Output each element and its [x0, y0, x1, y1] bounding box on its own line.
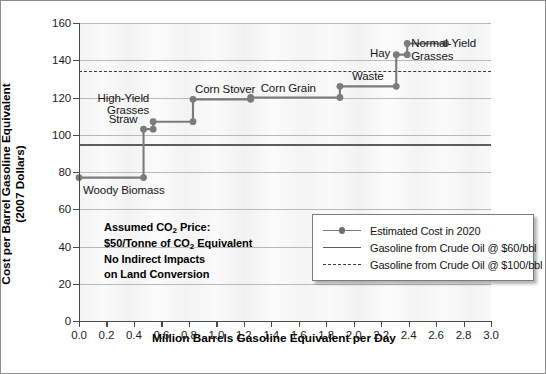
y-tick-label: 0 — [65, 315, 71, 327]
x-tick-label: 2.2 — [373, 329, 389, 341]
y-tick-label: 80 — [58, 166, 71, 178]
point-label: Hay — [370, 47, 390, 60]
legend-item-crude-60: Gasoline from Crude Oil @ $60/bbl — [321, 239, 527, 256]
x-tick-label: 0.6 — [154, 329, 170, 341]
x-tick-label: 1.6 — [291, 329, 307, 341]
y-tick-label: 100 — [52, 129, 71, 141]
legend: Estimated Cost in 2020 Gasoline from Cru… — [312, 214, 534, 281]
legend-key-line-solid — [321, 239, 363, 256]
x-tick-label: 2.8 — [456, 329, 472, 341]
x-tick-label: 0.0 — [71, 329, 87, 341]
data-point-marker — [150, 126, 157, 133]
data-point-marker — [337, 83, 344, 90]
x-tick-label: 1.0 — [208, 329, 224, 341]
assumption-line-1: Assumed CO2 Price: — [104, 221, 210, 233]
data-point-marker — [190, 96, 197, 103]
point-label: Waste — [352, 70, 384, 83]
point-label: Corn Stover — [195, 83, 255, 96]
data-point-marker — [140, 126, 147, 133]
legend-label: Gasoline from Crude Oil @ $60/bbl — [370, 242, 536, 254]
x-tick-label: 0.2 — [99, 329, 115, 341]
legend-item-estimated-cost: Estimated Cost in 2020 — [321, 222, 527, 239]
legend-label: Gasoline from Crude Oil @ $100/bbl — [370, 259, 542, 271]
x-tick-label: 1.2 — [236, 329, 252, 341]
assumption-line-4: on Land Conversion — [104, 268, 209, 280]
data-point-marker — [393, 51, 400, 58]
y-tick-label: 140 — [52, 54, 71, 66]
data-point-marker — [393, 83, 400, 90]
x-tick-label: 1.4 — [263, 329, 279, 341]
x-tick — [491, 321, 492, 327]
legend-key-line-dashed — [321, 256, 363, 273]
x-tick-label: 0.8 — [181, 329, 197, 341]
chart-page: Cost per Barrel Gasoline Equivalent (200… — [0, 0, 546, 374]
x-tick-label: 1.8 — [318, 329, 334, 341]
point-label: Corn Grain — [261, 82, 316, 95]
y-axis-line — [79, 23, 80, 321]
data-point-marker — [140, 174, 147, 181]
x-tick-label: 3.0 — [483, 329, 499, 341]
assumption-line-2: $50/Tonne of CO2 Equivalent — [104, 237, 252, 249]
y-tick-label: 40 — [58, 241, 71, 253]
assumptions-note: Assumed CO2 Price:$50/Tonne of CO2 Equiv… — [104, 220, 252, 282]
data-point-marker — [404, 40, 411, 47]
x-tick-label: 0.4 — [126, 329, 142, 341]
y-tick-label: 20 — [58, 278, 71, 290]
legend-key-line-marker — [321, 222, 363, 239]
x-axis-line — [79, 321, 491, 322]
x-tick-label: 2.0 — [346, 329, 362, 341]
y-tick-label: 60 — [58, 203, 71, 215]
data-point-marker — [404, 51, 411, 58]
point-label: Normal-Yield Grasses — [411, 37, 476, 62]
point-label: High-Yield Grasses — [98, 92, 150, 117]
data-point-marker — [190, 118, 197, 125]
y-axis-title: Cost per Barrel Gasoline Equivalent (200… — [0, 35, 27, 333]
point-label: Woody Biomass — [83, 184, 165, 197]
data-point-marker — [150, 118, 157, 125]
data-point-marker — [337, 94, 344, 101]
assumption-line-3: No Indirect Impacts — [104, 253, 205, 265]
x-tick-label: 2.4 — [401, 329, 417, 341]
y-tick-label: 120 — [52, 92, 71, 104]
legend-item-crude-100: Gasoline from Crude Oil @ $100/bbl — [321, 256, 527, 273]
y-tick-label: 160 — [52, 17, 71, 29]
legend-label: Estimated Cost in 2020 — [370, 225, 480, 237]
x-tick-label: 2.6 — [428, 329, 444, 341]
